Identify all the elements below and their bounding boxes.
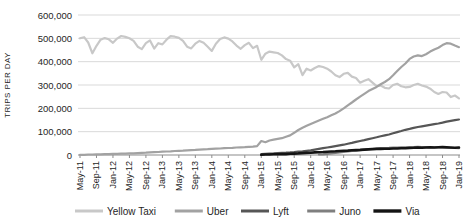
y-tick-label: 0	[67, 150, 72, 161]
x-tick-label: Jan-17	[355, 161, 365, 189]
legend-label-yellow-taxi: Yellow Taxi	[107, 206, 156, 217]
x-tick-label: Sep-18	[438, 161, 448, 190]
x-tick-label: Jan-14	[207, 161, 217, 189]
x-tick-label: May-12	[124, 161, 134, 191]
x-tick-label: May-11	[75, 161, 85, 190]
legend-label-via: Via	[405, 206, 420, 217]
y-tick-label: 300,000	[38, 80, 72, 91]
y-tick-label: 400,000	[38, 56, 72, 67]
legend-label-lyft: Lyft	[273, 206, 289, 217]
x-tick-label: May-16	[322, 161, 332, 191]
x-tick-label: Sep-14	[240, 161, 250, 190]
x-tick-label: May-13	[174, 161, 184, 191]
x-tick-label: Sep-17	[388, 161, 398, 190]
y-axis-title: TRIPS PER DAY	[3, 52, 12, 118]
series-line-uber	[80, 43, 459, 155]
x-tick-label: May-17	[372, 161, 382, 191]
x-tick-label: Jan-15	[256, 161, 266, 189]
x-tick-label: May-14	[223, 161, 233, 191]
x-tick-label: Sep-15	[289, 161, 299, 190]
x-tick-label: Jan-13	[157, 161, 167, 189]
x-tick-label: Sep-12	[141, 161, 151, 190]
x-tick-label: Jan-19	[454, 161, 464, 189]
x-tick-label: Sep-16	[339, 161, 349, 190]
legend-label-uber: Uber	[207, 206, 229, 217]
x-tick-label: May-18	[421, 161, 431, 191]
x-tick-label: Jan-18	[405, 161, 415, 189]
x-tick-label: Sep-11	[91, 161, 101, 189]
y-tick-label: 600,000	[38, 10, 72, 21]
chart-figure: 0100,000200,000300,000400,000500,000600,…	[0, 0, 467, 224]
x-tick-label: Jan-16	[306, 161, 316, 189]
x-tick-label: Sep-13	[190, 161, 200, 190]
legend-label-juno: Juno	[339, 206, 361, 217]
y-tick-label: 200,000	[38, 103, 72, 114]
trips-per-day-line-chart: 0100,000200,000300,000400,000500,000600,…	[0, 0, 467, 224]
y-tick-label: 100,000	[38, 126, 72, 137]
series-line-via	[261, 147, 459, 155]
x-tick-label: Jan-12	[108, 161, 118, 189]
x-tick-label: May-15	[273, 161, 283, 191]
y-tick-label: 500,000	[38, 33, 72, 44]
